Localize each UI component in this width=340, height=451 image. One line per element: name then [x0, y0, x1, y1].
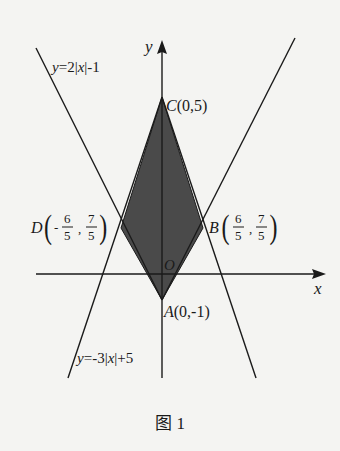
- svg-text:5: 5: [88, 228, 95, 243]
- svg-text:): ): [270, 208, 278, 246]
- svg-text:5: 5: [258, 228, 265, 243]
- svg-text:-: -: [54, 220, 58, 235]
- svg-text:(: (: [44, 208, 52, 246]
- svg-text:(: (: [222, 208, 230, 246]
- svg-text:6: 6: [64, 211, 71, 226]
- x-axis-label: x: [313, 279, 322, 298]
- svg-text:6: 6: [235, 211, 242, 226]
- svg-text:7: 7: [88, 211, 95, 226]
- svg-text:7: 7: [258, 211, 265, 226]
- svg-text:,: ,: [249, 221, 252, 236]
- svg-text:5: 5: [64, 228, 71, 243]
- svg-text:D: D: [30, 219, 43, 236]
- svg-text:B: B: [209, 219, 219, 236]
- svg-text:,: ,: [78, 221, 81, 236]
- y-axis-label: y: [143, 37, 153, 56]
- figure-caption: 图 1: [155, 414, 185, 433]
- origin-label: O: [164, 257, 175, 273]
- svg-text:5: 5: [235, 228, 242, 243]
- equation-label-lower: y=-3|x|+5: [75, 350, 133, 366]
- x-axis-arrow-icon: [312, 269, 326, 279]
- point-c-label: C(0,5): [166, 97, 207, 115]
- figure-canvas: y x O y=2|x|-1 y=-3|x|+5 C(0,5) A(0,-1) …: [0, 0, 340, 451]
- point-a-label: A(0,-1): [163, 303, 210, 321]
- svg-text:): ): [99, 208, 107, 246]
- y-axis-arrow-icon: [157, 40, 167, 54]
- point-d-label: D ( - 6 5 , 7 5 ): [30, 208, 107, 246]
- equation-label-upper: y=2|x|-1: [50, 59, 100, 75]
- point-b-label: B ( 6 5 , 7 5 ): [209, 208, 278, 246]
